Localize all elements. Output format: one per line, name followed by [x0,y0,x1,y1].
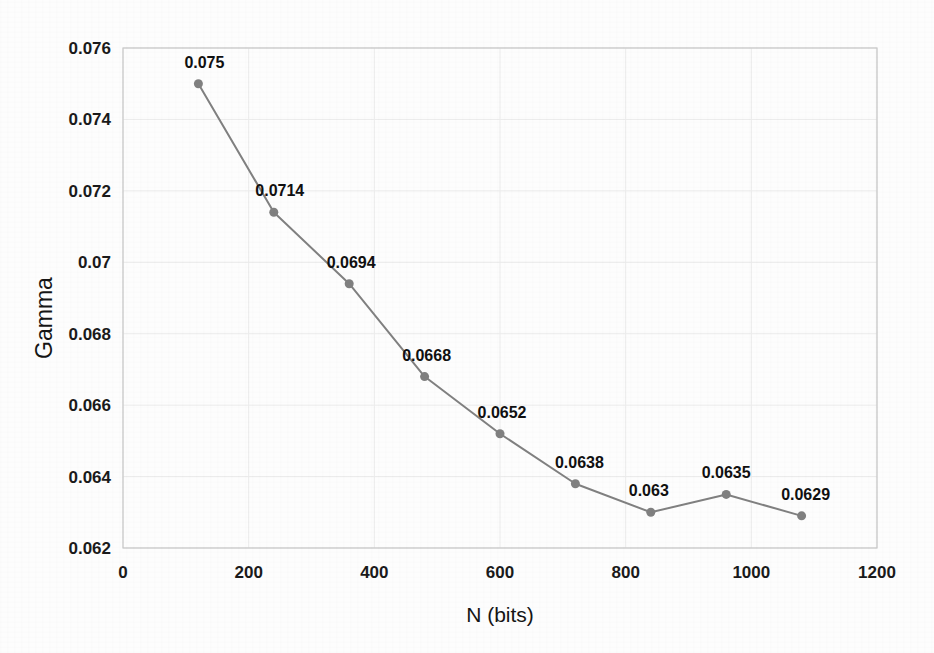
y-tick-label-3: 0.068 [68,325,111,344]
x-tick-label-0: 0 [118,563,127,582]
data-point-marker-0 [194,79,203,88]
data-point-label-5: 0.0638 [555,454,604,471]
data-point-label-8: 0.0629 [781,486,830,503]
y-tick-label-2: 0.066 [68,396,111,415]
y-tick-label-4: 0.07 [78,253,111,272]
data-point-marker-6 [646,508,655,517]
data-point-label-7: 0.0635 [702,464,751,481]
data-point-label-1: 0.0714 [255,182,304,199]
data-point-label-6: 0.063 [629,482,669,499]
y-tick-label-0: 0.062 [68,539,111,558]
data-point-marker-2 [345,279,354,288]
y-tick-label-5: 0.072 [68,182,111,201]
data-point-labels: 0.0750.07140.06940.06680.06520.06380.063… [184,54,830,503]
y-tick-label-6: 0.074 [68,110,111,129]
gridlines [123,48,877,548]
gamma-vs-n-line-chart: 020040060080010001200 0.0620.0640.0660.0… [0,0,934,653]
data-point-marker-3 [420,372,429,381]
data-point-label-2: 0.0694 [327,254,376,271]
data-point-marker-8 [797,511,806,520]
x-axis-title: N (bits) [466,603,534,626]
x-tick-label-3: 600 [486,563,514,582]
data-point-marker-5 [571,479,580,488]
data-point-marker-7 [722,490,731,499]
x-tick-label-5: 1000 [732,563,770,582]
data-point-label-3: 0.0668 [402,347,451,364]
y-axis-title: Gamma [31,277,57,359]
x-tick-label-4: 800 [611,563,639,582]
data-point-label-0: 0.075 [184,54,224,71]
x-tick-label-2: 400 [360,563,388,582]
data-point-label-4: 0.0652 [478,404,527,421]
y-tick-label-7: 0.076 [68,39,111,58]
data-point-marker-1 [269,208,278,217]
chart-page: 020040060080010001200 0.0620.0640.0660.0… [0,0,934,653]
y-axis-tick-labels: 0.0620.0640.0660.0680.070.0720.0740.076 [68,39,111,558]
x-tick-label-1: 200 [234,563,262,582]
y-tick-label-1: 0.064 [68,468,111,487]
x-tick-label-6: 1200 [858,563,896,582]
x-axis-tick-labels: 020040060080010001200 [118,563,896,582]
data-point-marker-4 [496,429,505,438]
